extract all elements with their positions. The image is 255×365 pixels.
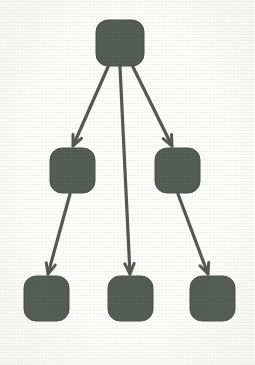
- node-left-leaf[interactable]: [24, 276, 69, 321]
- edge-right-mid-to-right-leaf: [178, 194, 209, 274]
- edge-left-mid-to-left-leaf: [46, 194, 70, 274]
- edge-root-to-right-mid: [133, 67, 172, 146]
- node-right-mid[interactable]: [155, 148, 200, 193]
- node-root[interactable]: [96, 20, 144, 66]
- tree-diagram: [0, 0, 255, 365]
- node-center-leaf[interactable]: [108, 276, 153, 321]
- edge-root-to-left-mid: [73, 67, 108, 146]
- node-left-mid[interactable]: [50, 148, 95, 193]
- node-layer: [24, 20, 235, 321]
- edge-root-to-center-leaf: [120, 67, 134, 274]
- node-right-leaf[interactable]: [190, 276, 235, 321]
- diagram-canvas: [0, 0, 255, 365]
